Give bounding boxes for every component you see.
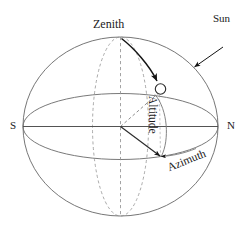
altitude-label: Altitude	[147, 96, 159, 134]
sun-position-marker	[155, 84, 165, 94]
diagram-canvas	[0, 0, 251, 226]
north-label: N	[227, 120, 235, 131]
south-label: S	[10, 120, 16, 131]
sun-pointer-arrow	[195, 47, 224, 67]
zenith-label: Zenith	[93, 18, 124, 30]
celestial-sphere-diagram: Zenith Sun S N Altitude Azimuth	[0, 0, 251, 226]
sun-vertical-drop-line	[160, 95, 161, 156]
sun-label: Sun	[213, 13, 230, 24]
